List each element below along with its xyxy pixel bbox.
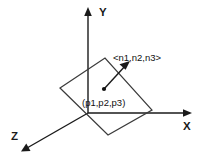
y-axis-label: Y bbox=[99, 6, 107, 18]
normal-vector: <n1,n2,n3> bbox=[104, 52, 162, 89]
y-axis-arrowhead-icon bbox=[84, 7, 92, 16]
z-axis-line bbox=[27, 113, 88, 148]
plane-point-label: (p1,p2,p3) bbox=[82, 97, 125, 108]
z-axis: Z bbox=[11, 113, 88, 152]
plane-point-dot bbox=[102, 87, 106, 91]
normal-vector-label: <n1,n2,n3> bbox=[113, 52, 162, 63]
x-axis-arrowhead-icon bbox=[183, 109, 192, 117]
diagram-canvas: Y X Z <n1,n2,n3> (p1,p2,p3) bbox=[0, 0, 202, 160]
x-axis-label: X bbox=[183, 120, 191, 132]
x-axis: X bbox=[88, 109, 192, 132]
diagram-svg: Y X Z <n1,n2,n3> (p1,p2,p3) bbox=[0, 0, 202, 160]
z-axis-label: Z bbox=[11, 130, 18, 142]
